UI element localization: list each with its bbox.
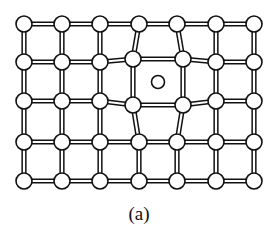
lattice-atom (92, 173, 108, 189)
lattice-atom (16, 93, 32, 109)
lattice-atom (175, 51, 191, 67)
lattice-atom (208, 134, 224, 150)
lattice-atom (169, 134, 185, 150)
lattice-atom (16, 173, 32, 189)
interstitial-atom-group (152, 76, 165, 89)
lattice-atom (92, 93, 108, 109)
lattice-atom (131, 173, 147, 189)
lattice-atom (16, 16, 32, 32)
lattice-atom (125, 51, 141, 67)
lattice-atom (92, 16, 108, 32)
lattice-atom (131, 16, 147, 32)
lattice-atom (246, 54, 262, 70)
lattice-atom (16, 54, 32, 70)
lattice-atom (208, 173, 224, 189)
lattice-atom (92, 54, 108, 70)
lattice-atom (246, 93, 262, 109)
figure-caption: (a) (0, 203, 278, 225)
lattice-atom (246, 173, 262, 189)
lattice-atom (54, 134, 70, 150)
lattice-atom (208, 93, 224, 109)
lattice-atom (208, 16, 224, 32)
lattice-atom (125, 97, 141, 113)
lattice-atom (54, 93, 70, 109)
lattice-atom (169, 173, 185, 189)
lattice-atom (246, 16, 262, 32)
lattice-atom (169, 16, 185, 32)
lattice-atom (246, 134, 262, 150)
lattice-atom (54, 16, 70, 32)
lattice-atom (54, 173, 70, 189)
lattice-atom (92, 134, 108, 150)
lattice-atom (54, 54, 70, 70)
lattice-atom (131, 134, 147, 150)
lattice-atom (16, 134, 32, 150)
lattice-atom (208, 54, 224, 70)
lattice-atom (175, 97, 191, 113)
interstitial-atom (152, 76, 165, 89)
